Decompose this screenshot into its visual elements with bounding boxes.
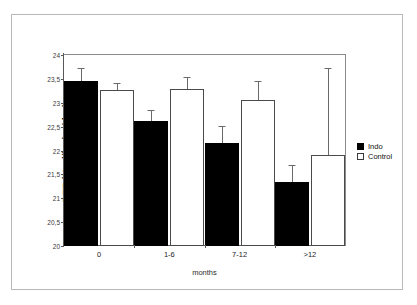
y-tick-label: 22,5 — [47, 123, 64, 130]
error-bar-control-2 — [258, 81, 259, 100]
bar-control-0 — [100, 90, 134, 246]
y-tick-label: 21,5 — [47, 171, 64, 178]
error-bar-cap-indo-2 — [218, 126, 225, 127]
x-tick-label: >12 — [304, 250, 317, 259]
bar-control-2 — [241, 100, 275, 246]
x-tick-mark — [275, 245, 276, 248]
error-bar-cap-control-0 — [114, 83, 121, 84]
error-bar-cap-control-3 — [324, 68, 331, 69]
y-tick-label: 24 — [53, 52, 64, 59]
error-bar-cap-indo-3 — [288, 165, 295, 166]
legend-item-label: Indo — [368, 142, 383, 151]
y-tick-label: 20 — [53, 243, 64, 250]
error-bar-indo-3 — [292, 165, 293, 183]
error-bar-control-0 — [117, 83, 118, 90]
y-tick-label: 22 — [53, 147, 64, 154]
bar-indo-3 — [275, 182, 309, 246]
y-tick-label: 23,5 — [47, 75, 64, 82]
x-axis-label: months — [64, 268, 345, 277]
error-bar-cap-indo-0 — [78, 68, 85, 69]
error-bar-control-3 — [328, 68, 329, 155]
bar-indo-2 — [205, 143, 239, 246]
x-tick-mark — [134, 245, 135, 248]
figure: REE (Kcal/kg bw/day) 2020,52121,52222,52… — [0, 0, 417, 305]
y-tick-label: 20,5 — [47, 219, 64, 226]
x-tick-label: 7-12 — [232, 250, 247, 259]
y-tick-label: 23 — [53, 99, 64, 106]
error-bar-cap-control-1 — [184, 77, 191, 78]
error-bar-indo-1 — [151, 110, 152, 121]
legend-item-control: Control — [357, 151, 392, 161]
filled-square-icon — [357, 143, 364, 150]
error-bar-cap-control-2 — [254, 81, 261, 82]
error-bar-indo-0 — [81, 68, 82, 81]
plot-area: 2020,52121,52222,52323,524 — [64, 54, 346, 246]
legend-item-label: Control — [368, 152, 392, 161]
bar-indo-1 — [134, 121, 168, 246]
y-tick-label: 21 — [53, 195, 64, 202]
error-bar-control-1 — [187, 77, 188, 89]
bar-control-3 — [311, 155, 345, 246]
error-bar-indo-2 — [222, 126, 223, 143]
bar-control-1 — [170, 89, 204, 246]
x-tick-mark — [205, 245, 206, 248]
x-tick-label: 0 — [97, 250, 101, 259]
open-square-icon — [357, 153, 364, 160]
legend-item-indo: Indo — [357, 141, 392, 151]
legend: IndoControl — [357, 141, 392, 161]
x-tick-label: 1-6 — [164, 250, 175, 259]
bar-indo-0 — [64, 81, 98, 246]
error-bar-cap-indo-1 — [148, 110, 155, 111]
